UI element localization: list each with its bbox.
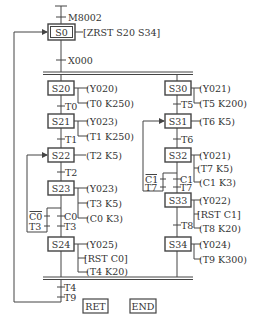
transition-t8-label: T8 bbox=[181, 220, 193, 231]
step-s21-label: S21 bbox=[52, 116, 71, 127]
s20-action-2: (T0 K250) bbox=[86, 98, 134, 109]
s20-action-1: (Y020) bbox=[86, 83, 118, 94]
s30-action-2: (T5 K200) bbox=[199, 98, 247, 109]
step-s23: S23 bbox=[48, 181, 74, 195]
transition-t0-label: T0 bbox=[65, 101, 77, 112]
s23-action-3: (C0 K3) bbox=[86, 213, 123, 224]
s23-action-2: (T3 K5) bbox=[86, 198, 122, 209]
s34-action-2: (T9 K300) bbox=[199, 254, 247, 265]
step-s20-label: S20 bbox=[52, 83, 71, 94]
s24-action-2: [RST C0] bbox=[84, 253, 128, 264]
transition-t6-label: T6 bbox=[181, 134, 193, 145]
s32-action-2: (T7 K5) bbox=[197, 163, 233, 174]
s33-action-2: [RST C1] bbox=[197, 209, 241, 220]
step-s21: S21 bbox=[48, 114, 74, 128]
step-s31: S31 bbox=[165, 114, 191, 128]
step-s22-label: S22 bbox=[52, 150, 71, 161]
step-s22: S22 bbox=[48, 148, 74, 162]
s21-action-1: (Y023) bbox=[86, 116, 118, 127]
sfc-diagram: M8002 S0 [ZRST S20 S34] X000 S20 (Y020) … bbox=[0, 0, 258, 325]
ret-block: RET bbox=[83, 299, 108, 313]
step-s34: S34 bbox=[165, 237, 191, 251]
s34-action-1: (Y024) bbox=[199, 239, 231, 250]
transition-t9-label: T9 bbox=[64, 292, 76, 303]
forward-t3-label: T3 bbox=[64, 221, 76, 232]
s33-action-3: (T8 K20) bbox=[199, 223, 241, 234]
end-block: END bbox=[130, 299, 156, 313]
step-s34-label: S34 bbox=[169, 239, 188, 250]
step-s24-label: S24 bbox=[52, 239, 71, 250]
step-s20: S20 bbox=[48, 81, 74, 95]
step-s30: S30 bbox=[165, 81, 191, 95]
transition-m8002-label: M8002 bbox=[68, 12, 102, 23]
step-s0: S0 bbox=[48, 24, 75, 40]
s33-action-1: (Y022) bbox=[199, 195, 231, 206]
ret-label: RET bbox=[85, 301, 106, 312]
left-loop-t3-label: T3 bbox=[29, 221, 41, 232]
right-loop-t7-label: T7 bbox=[145, 182, 157, 193]
s32-action-1: (Y021) bbox=[199, 150, 231, 161]
s24-action-3: (T4 K20) bbox=[86, 266, 128, 277]
s32-action-3: (C1 K3) bbox=[199, 177, 236, 188]
step-s33-label: S33 bbox=[169, 195, 188, 206]
step-s23-label: S23 bbox=[52, 183, 71, 194]
step-s24: S24 bbox=[48, 237, 74, 251]
transition-t5-label: T5 bbox=[181, 99, 193, 110]
s24-action-1: (Y025) bbox=[86, 239, 118, 250]
end-label: END bbox=[132, 301, 155, 312]
transition-x000-label: X000 bbox=[68, 55, 93, 66]
step-s30-label: S30 bbox=[169, 83, 188, 94]
forward-t7-label: T7 bbox=[180, 182, 192, 193]
step-s0-label: S0 bbox=[55, 27, 68, 38]
step-s32-label: S32 bbox=[169, 150, 188, 161]
step-s32: S32 bbox=[165, 148, 191, 162]
step-s33: S33 bbox=[165, 193, 191, 207]
step-s31-label: S31 bbox=[169, 116, 188, 127]
s22-action-1: (T2 K5) bbox=[86, 150, 122, 161]
s0-action: [ZRST S20 S34] bbox=[83, 27, 160, 38]
s31-action-1: (T6 K5) bbox=[199, 116, 235, 127]
transition-t1-label: T1 bbox=[65, 134, 77, 145]
s23-action-1: (Y023) bbox=[86, 183, 118, 194]
s30-action-1: (Y021) bbox=[199, 83, 231, 94]
transition-t2-label: T2 bbox=[65, 167, 77, 178]
s21-action-2: (T1 K250) bbox=[86, 131, 134, 142]
